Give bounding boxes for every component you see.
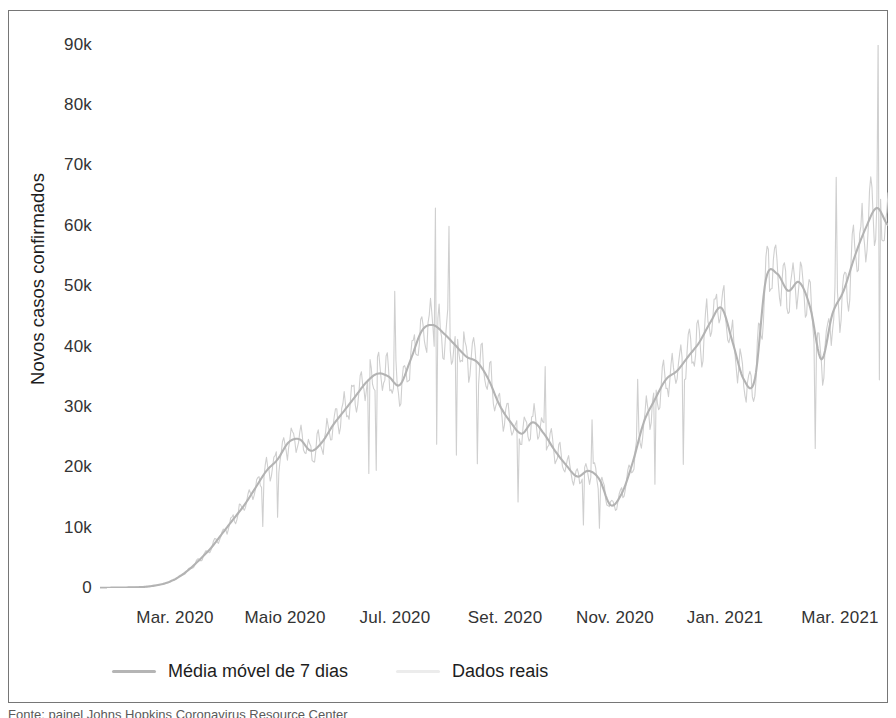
y-tick-label-10k: 10k: [64, 518, 92, 538]
x-axis-tick-labels: Mar. 2020 Maio 2020 Jul. 2020 Set. 2020 …: [0, 608, 896, 634]
chart-canvas: [100, 45, 888, 588]
x-tick-label-nov-2020: Nov. 2020: [576, 608, 654, 628]
x-tick-label-mar-2021: Mar. 2021: [801, 608, 878, 628]
plot-area: [100, 45, 888, 588]
chart-figure: 90k 80k 70k 60k 50k 40k 30k 20k 10k 0 No…: [0, 0, 896, 718]
y-tick-label-80k: 80k: [64, 95, 92, 115]
y-tick-label-50k: 50k: [64, 276, 92, 296]
legend-item-media-movel: Média móvel de 7 dias: [112, 661, 348, 682]
y-tick-label-20k: 20k: [64, 457, 92, 477]
x-tick-label-maio-2020: Maio 2020: [244, 608, 325, 628]
legend-item-dados-reais: Dados reais: [396, 661, 548, 682]
series-dados-reais: [100, 45, 888, 588]
x-tick-label-jan-2021: Jan. 2021: [687, 608, 763, 628]
y-tick-label-60k: 60k: [64, 216, 92, 236]
y-tick-label-90k: 90k: [64, 35, 92, 55]
y-tick-label-0: 0: [82, 578, 92, 598]
legend-label-media-movel: Média móvel de 7 dias: [168, 661, 348, 682]
raw-data-line: [100, 45, 888, 588]
y-tick-label-70k: 70k: [64, 155, 92, 175]
x-tick-label-jul-2020: Jul. 2020: [360, 608, 431, 628]
legend-label-dados-reais: Dados reais: [452, 661, 548, 682]
chart-legend: Média móvel de 7 dias Dados reais: [112, 658, 548, 684]
series-media-movel: [100, 208, 888, 588]
y-tick-label-40k: 40k: [64, 337, 92, 357]
y-axis-title: Novos casos confirmados: [27, 19, 49, 539]
rolling-average-line: [100, 208, 888, 588]
x-tick-label-mar-2020: Mar. 2020: [136, 608, 213, 628]
x-tick-label-set-2020: Set. 2020: [468, 608, 543, 628]
y-tick-label-30k: 30k: [64, 397, 92, 417]
source-caption: Fonte: painel Johns Hopkins Coronavirus …: [8, 707, 648, 718]
legend-line-swatch-icon: [112, 670, 156, 673]
legend-raw-swatch-icon: [396, 670, 440, 673]
